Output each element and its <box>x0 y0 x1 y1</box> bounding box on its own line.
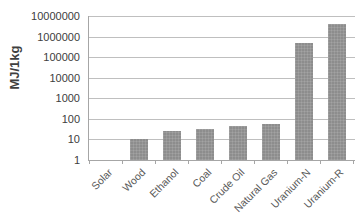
bar-slot <box>321 16 354 160</box>
bar-uranium-r[interactable] <box>328 24 346 160</box>
bar-coal[interactable] <box>196 129 214 160</box>
x-label-slot: Uranium-R <box>321 164 354 222</box>
x-tick-label: Coal <box>190 166 214 190</box>
bar-chart: MJ/1kg 10000000 1000000 100000 10000 100… <box>0 0 359 223</box>
y-tick-label: 10000 <box>49 72 80 84</box>
bar-slot <box>122 16 155 160</box>
y-tick-label: 100 <box>62 113 80 125</box>
bar-ethanol[interactable] <box>163 131 181 160</box>
y-axis-tick-labels: 10000000 1000000 100000 10000 1000 100 1… <box>0 16 84 160</box>
y-tick-label: 1 <box>74 154 80 166</box>
y-tick-label: 100000 <box>43 51 80 63</box>
x-tick-label: Solar <box>88 166 114 192</box>
y-tick-label: 1000 <box>56 92 80 104</box>
x-axis-tick-labels: Solar Wood Ethanol Coal Crude Oil Natura… <box>89 164 354 222</box>
x-tick-label: Wood <box>119 166 147 194</box>
bar-series <box>89 16 354 160</box>
bar-wood[interactable] <box>130 139 148 160</box>
bar-slot <box>222 16 255 160</box>
bar-slot <box>188 16 221 160</box>
bar-slot <box>89 16 122 160</box>
bar-slot <box>255 16 288 160</box>
bar-crude-oil[interactable] <box>229 126 247 160</box>
x-label-slot: Solar <box>89 164 122 222</box>
bar-slot <box>288 16 321 160</box>
y-tick-label: 1000000 <box>37 31 80 43</box>
bar-uranium-n[interactable] <box>295 43 313 160</box>
x-label-slot: Ethanol <box>155 164 188 222</box>
bar-slot <box>155 16 188 160</box>
bar-natural-gas[interactable] <box>262 124 280 160</box>
y-tick-label: 10000000 <box>31 10 80 22</box>
y-tick-label: 10 <box>68 133 80 145</box>
